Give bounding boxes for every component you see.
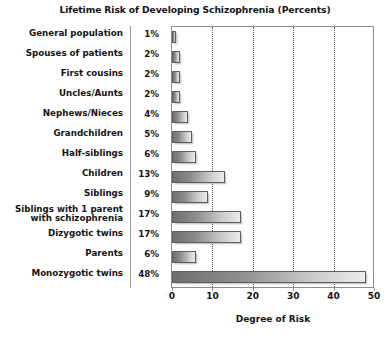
x-tick-label: 0 (157, 291, 187, 301)
category-label: Half-siblings (0, 149, 127, 159)
category-row: Parents6% (0, 244, 390, 264)
x-axis-title: Degree of Risk (171, 314, 375, 324)
category-row: Dizygotic twins17% (0, 224, 390, 244)
x-tick-label: 30 (278, 291, 308, 301)
x-tick-label: 20 (238, 291, 268, 301)
category-rows: General population1%Spouses of patients2… (0, 24, 390, 289)
category-row: Monozygotic twins48% (0, 264, 390, 284)
category-row: Children13% (0, 164, 390, 184)
category-row: First cousins2% (0, 64, 390, 84)
chart-title: Lifetime Risk of Developing Schizophreni… (0, 4, 390, 15)
category-row: Siblings9% (0, 184, 390, 204)
category-label: Siblings (0, 189, 127, 199)
value-label: 17% (127, 229, 165, 239)
x-tick-label: 40 (319, 291, 349, 301)
schizophrenia-risk-chart: Lifetime Risk of Developing Schizophreni… (0, 0, 390, 337)
category-row: Spouses of patients2% (0, 44, 390, 64)
value-label: 4% (127, 109, 165, 119)
value-label: 17% (127, 209, 165, 219)
value-label: 2% (127, 69, 165, 79)
category-label: Nephews/Nieces (0, 109, 127, 119)
category-label: Uncles/Aunts (0, 89, 127, 99)
category-label: General population (0, 29, 127, 39)
category-label: Spouses of patients (0, 49, 127, 59)
value-label: 9% (127, 189, 165, 199)
x-tick-label: 10 (197, 291, 227, 301)
category-row: Uncles/Aunts2% (0, 84, 390, 104)
value-label: 2% (127, 89, 165, 99)
value-label: 5% (127, 129, 165, 139)
value-label: 1% (127, 29, 165, 39)
category-label: First cousins (0, 69, 127, 79)
value-label: 2% (127, 49, 165, 59)
category-row: Grandchildren5% (0, 124, 390, 144)
value-label: 13% (127, 169, 165, 179)
category-label: Monozygotic twins (0, 269, 127, 279)
category-label: Siblings with 1 parent with schizophreni… (0, 205, 127, 224)
x-axis-ticks: 01020304050 (171, 288, 375, 302)
category-row: General population1% (0, 24, 390, 44)
category-label: Grandchildren (0, 129, 127, 139)
value-label: 6% (127, 249, 165, 259)
category-row: Half-siblings6% (0, 144, 390, 164)
value-label: 48% (127, 269, 165, 279)
category-label: Dizygotic twins (0, 229, 127, 239)
category-row: Nephews/Nieces4% (0, 104, 390, 124)
category-label: Children (0, 169, 127, 179)
category-row: Siblings with 1 parent with schizophreni… (0, 204, 390, 224)
value-label: 6% (127, 149, 165, 159)
x-tick-label: 50 (359, 291, 389, 301)
category-label: Parents (0, 249, 127, 259)
